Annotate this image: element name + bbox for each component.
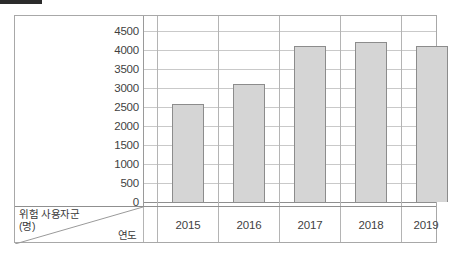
bar-2016 <box>233 84 265 202</box>
baseline-gridline <box>144 202 436 203</box>
column-separator <box>340 16 341 206</box>
x-axis-separator <box>401 207 402 242</box>
gridline <box>144 50 436 51</box>
y-tick-label: 3500 <box>114 63 139 75</box>
y-tick-label: 1000 <box>114 158 139 170</box>
grid-region <box>144 16 436 206</box>
gridline <box>144 88 436 89</box>
x-axis-separator <box>218 207 219 242</box>
column-separator <box>157 16 158 206</box>
column-separator <box>401 16 402 206</box>
column-separator <box>279 16 280 206</box>
x-tick-label-2015: 2015 <box>176 219 201 231</box>
y-axis-caption: 위험 사용자군 (명) <box>19 208 80 232</box>
bar-2019 <box>416 46 448 202</box>
bar-2015 <box>172 104 204 202</box>
axis-caption-corner-cell: 위험 사용자군 (명) 연도 <box>15 207 143 244</box>
bar-chart: 4500 4000 3500 3000 2500 2000 1500 1000 … <box>14 15 437 243</box>
y-tick-label: 2000 <box>114 120 139 132</box>
y-tick-label: 4500 <box>114 25 139 37</box>
x-tick-label-2019: 2019 <box>414 219 439 231</box>
x-axis-caption: 연도 <box>118 227 137 242</box>
y-tick-label: 1500 <box>114 139 139 151</box>
y-axis-caption-line1: 위험 사용자군 <box>19 208 80 220</box>
bar-2018 <box>355 42 387 202</box>
x-tick-label-2018: 2018 <box>359 219 384 231</box>
gridline <box>144 69 436 70</box>
x-axis-separator <box>279 207 280 242</box>
gridline <box>144 31 436 32</box>
x-axis-separator <box>157 207 158 242</box>
column-separator <box>218 16 219 206</box>
x-axis-separator <box>143 207 144 242</box>
y-tick-label: 4000 <box>114 44 139 56</box>
plot-area: 4500 4000 3500 3000 2500 2000 1500 1000 … <box>15 16 436 206</box>
y-tick-label: 500 <box>120 177 139 189</box>
bar-2017 <box>294 46 326 202</box>
x-axis-row: 2015 2016 2017 2018 2019 위험 사용자군 (명) 연도 <box>15 206 436 242</box>
y-tick-label: 2500 <box>114 101 139 113</box>
y-axis-caption-line2: (명) <box>19 220 80 232</box>
x-axis-separator <box>340 207 341 242</box>
x-tick-label-2016: 2016 <box>237 219 262 231</box>
y-axis: 4500 4000 3500 3000 2500 2000 1500 1000 … <box>15 16 143 206</box>
x-tick-label-2017: 2017 <box>298 219 323 231</box>
top-left-marker-strip <box>0 0 42 4</box>
y-tick-label: 3000 <box>114 82 139 94</box>
